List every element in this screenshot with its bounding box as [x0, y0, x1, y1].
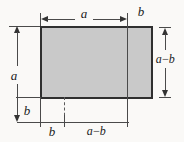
right-dimension-line-lower [165, 68, 166, 90]
figure-canvas: a b a b a−b b a−b [0, 0, 184, 142]
top-dimension-line-left [47, 19, 75, 20]
bottom-tick-b [64, 115, 65, 127]
right-dimension-bottom-bar [159, 97, 171, 98]
bottom-right-width-label: a−b [87, 125, 106, 137]
left-dimension-line-upper [17, 32, 18, 66]
top-dimension-line-right [93, 19, 121, 20]
square-bottom-edge [17, 122, 129, 123]
shaded-rectangle [40, 26, 153, 99]
top-right-width-label: b [138, 5, 145, 18]
top-width-label: a [81, 7, 88, 20]
arrowhead-down-icon [14, 115, 20, 122]
divider-line-vertical [127, 13, 128, 127]
right-dimension-line-upper [165, 34, 166, 50]
arrowhead-down-icon [162, 90, 168, 97]
left-height-label: a [11, 69, 18, 82]
bottom-tick-left [40, 115, 41, 127]
left-dimension-line-lower [17, 84, 18, 116]
bottom-left-width-label: b [49, 125, 56, 138]
extension-line-mid-left [16, 97, 40, 98]
right-height-label: a−b [156, 53, 175, 65]
arrowhead-right-icon [120, 16, 127, 22]
left-lower-height-label: b [24, 104, 31, 117]
